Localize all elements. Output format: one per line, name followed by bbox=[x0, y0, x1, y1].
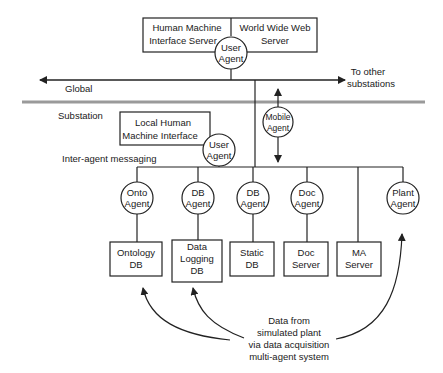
doc-agent-label-2: Agent bbox=[295, 198, 320, 209]
local-user-agent-label-1: User bbox=[209, 139, 229, 150]
data-source-line-3: via data acquisition bbox=[249, 339, 330, 350]
global-user-agent-label-1: User bbox=[221, 42, 241, 53]
substation-label: Substation bbox=[58, 110, 103, 121]
onto-agent: Onto Agent bbox=[121, 182, 153, 214]
ma-server-label-2: Server bbox=[345, 259, 373, 270]
data-source-line-1: Data from bbox=[268, 315, 310, 326]
db-agent-logging: DB Agent bbox=[182, 182, 214, 214]
plant-agent-label-2: Agent bbox=[391, 198, 416, 209]
www-server-label-1: World Wide Web bbox=[240, 22, 311, 33]
local-hmi-label-1: Local Human bbox=[135, 117, 191, 128]
inter-agent-messaging-label: Inter-agent messaging bbox=[62, 153, 157, 164]
data-logging-db-label-3: DB bbox=[190, 265, 203, 276]
global-user-agent: User Agent bbox=[215, 37, 247, 69]
multi-agent-architecture-diagram: Human Machine Interface Server World Wid… bbox=[0, 0, 443, 373]
doc-server-label-2: Server bbox=[292, 259, 320, 270]
data-source-label: Data from simulated plant via data acqui… bbox=[249, 315, 330, 362]
www-server-label-2: Server bbox=[261, 35, 289, 46]
data-source-line-4: multi-agent system bbox=[249, 351, 329, 362]
mobile-agent-label-1: Mobile bbox=[265, 112, 290, 122]
data-logging-db-label-1: Data bbox=[187, 241, 208, 252]
to-other-substations-label-1: To other bbox=[351, 66, 385, 77]
onto-agent-label-1: Onto bbox=[127, 187, 148, 198]
db-agent-2-label-1: DB bbox=[246, 187, 259, 198]
hmi-server-label-1: Human Machine bbox=[152, 22, 221, 33]
static-db-label-1: Static bbox=[240, 247, 264, 258]
doc-server-box: Doc Server bbox=[284, 242, 328, 276]
local-user-agent-label-2: Agent bbox=[207, 150, 232, 161]
global-user-agent-label-2: Agent bbox=[219, 53, 244, 64]
db-agent-static: DB Agent bbox=[237, 182, 269, 214]
db-agent-2-label-2: Agent bbox=[241, 198, 266, 209]
static-db-box: Static DB bbox=[230, 242, 274, 276]
to-other-substations-label-2: substations bbox=[347, 78, 395, 89]
db-agent-1-label-1: DB bbox=[191, 187, 204, 198]
onto-agent-label-2: Agent bbox=[125, 198, 150, 209]
doc-server-label-1: Doc bbox=[298, 247, 315, 258]
global-label: Global bbox=[65, 83, 92, 94]
ontology-db-label-1: Ontology bbox=[117, 247, 155, 258]
plant-agent-label-1: Plant bbox=[392, 187, 414, 198]
local-user-agent: User Agent bbox=[203, 134, 235, 166]
ontology-db-box: Ontology DB bbox=[110, 242, 162, 276]
plant-agent: Plant Agent bbox=[387, 182, 419, 214]
local-hmi-box: Local Human Machine Interface bbox=[120, 112, 210, 145]
data-source-line-2: simulated plant bbox=[257, 327, 321, 338]
ma-server-box: MA Server bbox=[337, 242, 381, 276]
hmi-server-label-2: Interface Server bbox=[149, 35, 217, 46]
data-logging-db-label-2: Logging bbox=[180, 253, 214, 264]
data-logging-db-box: Data Logging DB bbox=[172, 240, 222, 282]
doc-agent: Doc Agent bbox=[291, 182, 323, 214]
ontology-db-label-2: DB bbox=[129, 259, 142, 270]
static-db-label-2: DB bbox=[245, 259, 258, 270]
doc-agent-label-1: Doc bbox=[299, 187, 316, 198]
db-agent-1-label-2: Agent bbox=[186, 198, 211, 209]
ma-server-label-1: MA bbox=[352, 247, 367, 258]
local-hmi-label-2: Machine Interface bbox=[122, 130, 198, 141]
mobile-agent: Mobile Agent bbox=[263, 89, 293, 162]
mobile-agent-label-2: Agent bbox=[267, 123, 290, 133]
